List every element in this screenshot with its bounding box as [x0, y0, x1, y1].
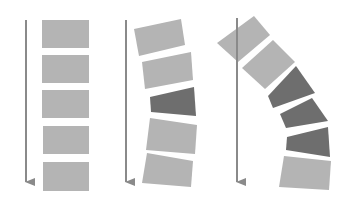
spine-curvature-diagram: [0, 0, 353, 204]
vertebra-block: [134, 19, 185, 56]
panel-strong-curve-column: [217, 16, 331, 190]
vertebra-block: [42, 55, 89, 83]
panel-straight-column: [26, 20, 89, 191]
vertebra-block: [42, 90, 89, 118]
highlighted-vertebra-block: [286, 127, 330, 157]
vertebra-block: [142, 153, 193, 187]
vertebra-block: [42, 20, 89, 48]
highlighted-vertebra-block: [150, 87, 196, 116]
diagram-canvas: [0, 0, 353, 204]
vertebra-block: [43, 162, 89, 191]
panel-slight-curve-column: [126, 19, 197, 187]
vertebra-block: [43, 126, 89, 154]
vertebra-block: [142, 52, 193, 89]
vertebra-block: [279, 156, 331, 190]
vertebra-block: [146, 118, 197, 154]
